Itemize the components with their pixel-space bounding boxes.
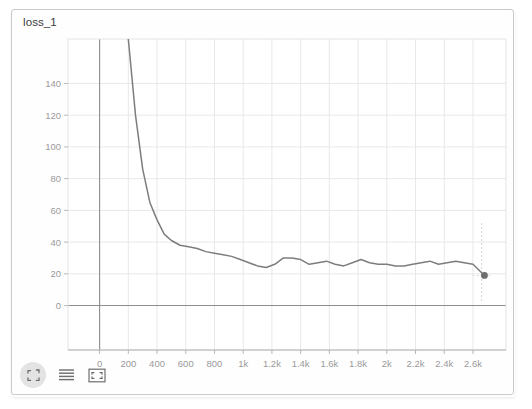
svg-text:2.6k: 2.6k [464,358,482,369]
log-scale-button[interactable] [55,364,77,386]
expand-box-icon [88,368,106,383]
svg-text:1.8k: 1.8k [349,358,367,369]
svg-text:400: 400 [149,358,165,369]
fit-domain-button[interactable] [20,362,46,388]
chart-panel: loss_1 02040608010012014002004006008001k… [11,9,514,395]
loss-line-chart[interactable]: 02040608010012014002004006008001k1.2k1.4… [12,10,515,396]
svg-text:120: 120 [45,110,61,121]
expand-view-button[interactable] [86,364,108,386]
svg-text:600: 600 [178,358,194,369]
svg-text:800: 800 [207,358,223,369]
svg-text:1k: 1k [238,358,248,369]
chart-toolbar[interactable] [20,362,108,388]
svg-text:0: 0 [56,300,61,311]
svg-text:2.2k: 2.2k [407,358,425,369]
fit-domain-icon [26,368,41,383]
svg-text:20: 20 [50,268,61,279]
svg-text:2.4k: 2.4k [435,358,453,369]
svg-text:100: 100 [45,141,61,152]
svg-text:80: 80 [50,173,61,184]
svg-text:1.2k: 1.2k [263,358,281,369]
svg-text:1.6k: 1.6k [320,358,338,369]
svg-text:60: 60 [50,205,61,216]
svg-text:200: 200 [120,358,136,369]
svg-text:1.4k: 1.4k [292,358,310,369]
svg-text:40: 40 [50,237,61,248]
plot-area[interactable]: 02040608010012014002004006008001k1.2k1.4… [12,10,515,396]
screenshot-root: loss_1 02040608010012014002004006008001k… [0,0,532,409]
list-lines-icon [58,368,75,382]
svg-text:2k: 2k [382,358,392,369]
svg-text:140: 140 [45,78,61,89]
